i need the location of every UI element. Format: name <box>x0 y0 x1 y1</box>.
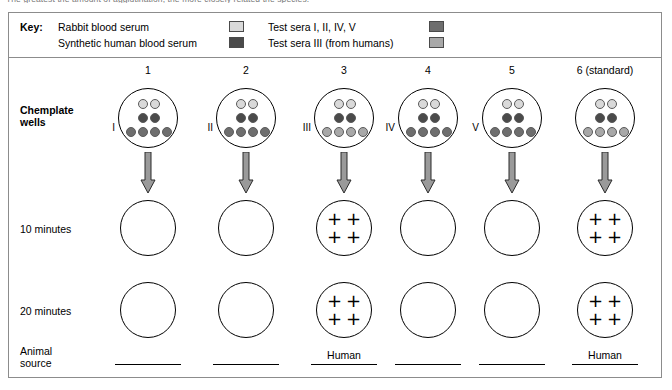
row-label-animal-source: Animal source <box>20 345 52 369</box>
test-sera-dot <box>162 127 172 137</box>
result-well-twenty-minutes-1 <box>120 282 176 338</box>
well-roman-numeral-1: I <box>101 122 115 133</box>
plus-mark: + <box>346 230 361 244</box>
flow-arrow-3 <box>336 152 352 196</box>
test-sera-dot <box>595 127 605 137</box>
test-sera-dot <box>607 127 617 137</box>
chemplate-well-1 <box>118 88 178 148</box>
animal-source-blank-3[interactable] <box>311 364 377 365</box>
plus-mark: + <box>346 312 361 326</box>
rabbit-serum-dot <box>595 99 605 109</box>
synthetic-serum-dot <box>150 113 160 123</box>
agglutination-marks: ++++ <box>317 283 371 337</box>
synthetic-serum-dot <box>346 113 356 123</box>
plus-mark: + <box>346 294 361 308</box>
test-sera-dot <box>490 127 500 137</box>
plus-mark: + <box>327 212 342 226</box>
result-well-ten-minutes-4 <box>400 200 456 256</box>
rabbit-serum-dot <box>138 99 148 109</box>
plus-mark: + <box>327 230 342 244</box>
column-header-4: 4 <box>383 64 473 76</box>
test-sera-dot <box>236 127 246 137</box>
result-well-twenty-minutes-3: ++++ <box>316 282 372 338</box>
row-label-twenty-minutes: 20 minutes <box>20 305 71 317</box>
test-sera-dot <box>358 127 368 137</box>
test-sera-dot <box>346 127 356 137</box>
key-swatch-rabbit-serum <box>229 21 244 32</box>
plus-mark: + <box>588 294 603 308</box>
rabbit-serum-dot <box>334 99 344 109</box>
animal-source-blank-5[interactable] <box>479 364 545 365</box>
animal-source-blank-1[interactable] <box>115 364 181 365</box>
test-sera-dot <box>126 127 136 137</box>
key-label-rabbit-serum: Rabbit blood serum <box>58 21 149 33</box>
test-sera-dot <box>150 127 160 137</box>
rabbit-serum-dot <box>346 99 356 109</box>
rabbit-serum-dot <box>248 99 258 109</box>
key-divider <box>9 57 661 58</box>
plus-mark: + <box>346 212 361 226</box>
result-well-twenty-minutes-6: ++++ <box>577 282 633 338</box>
key-swatch-synthetic-human-serum <box>229 37 244 48</box>
animal-source-blank-4[interactable] <box>395 364 461 365</box>
synthetic-serum-dot <box>607 113 617 123</box>
animal-source-blank-6[interactable] <box>572 364 638 365</box>
column-header-2: 2 <box>201 64 291 76</box>
well-roman-numeral-5: V <box>465 122 479 133</box>
animal-source-answer-6: Human <box>572 349 638 361</box>
rabbit-serum-dot <box>418 99 428 109</box>
test-sera-dot <box>619 127 629 137</box>
plus-mark: + <box>607 230 622 244</box>
test-sera-dot <box>442 127 452 137</box>
synthetic-serum-dot <box>595 113 605 123</box>
chemplate-well-5 <box>482 88 542 148</box>
flow-arrow-1 <box>140 152 156 196</box>
rabbit-serum-dot <box>430 99 440 109</box>
test-sera-dot <box>334 127 344 137</box>
test-sera-dot <box>526 127 536 137</box>
chemplate-well-3 <box>314 88 374 148</box>
rabbit-serum-dot <box>502 99 512 109</box>
rabbit-serum-dot <box>607 99 617 109</box>
synthetic-serum-dot <box>430 113 440 123</box>
plus-mark: + <box>588 212 603 226</box>
key-swatch-test-sera-three <box>429 37 444 48</box>
column-header-3: 3 <box>299 64 389 76</box>
test-sera-dot <box>418 127 428 137</box>
agglutination-marks: ++++ <box>578 283 632 337</box>
synthetic-serum-dot <box>502 113 512 123</box>
test-sera-dot <box>138 127 148 137</box>
flow-arrow-6 <box>597 152 613 196</box>
test-sera-dot <box>583 127 593 137</box>
chemplate-well-4 <box>398 88 458 148</box>
flow-arrow-5 <box>504 152 520 196</box>
column-header-1: 1 <box>103 64 193 76</box>
plus-mark: + <box>588 230 603 244</box>
rabbit-serum-dot <box>236 99 246 109</box>
test-sera-dot <box>224 127 234 137</box>
chemplate-well-6 <box>575 88 635 148</box>
agglutination-marks: ++++ <box>317 201 371 255</box>
plus-mark: + <box>327 294 342 308</box>
plus-mark: + <box>607 294 622 308</box>
synthetic-serum-dot <box>248 113 258 123</box>
plus-mark: + <box>607 312 622 326</box>
synthetic-serum-dot <box>334 113 344 123</box>
test-sera-dot <box>248 127 258 137</box>
result-well-ten-minutes-1 <box>120 200 176 256</box>
test-sera-dot <box>502 127 512 137</box>
result-well-twenty-minutes-2 <box>218 282 274 338</box>
key-label-test-sera-group: Test sera I, II, IV, V <box>268 21 356 33</box>
column-header-6: 6 (standard) <box>560 64 650 76</box>
well-roman-numeral-2: II <box>199 122 213 133</box>
result-well-twenty-minutes-4 <box>400 282 456 338</box>
column-header-5: 5 <box>467 64 557 76</box>
clipped-header-text: The greatest the amount of agglutination… <box>6 0 566 3</box>
plus-mark: + <box>588 312 603 326</box>
key-label-test-sera-three: Test sera III (from humans) <box>268 37 393 49</box>
test-sera-dot <box>406 127 416 137</box>
animal-source-blank-2[interactable] <box>213 364 279 365</box>
flow-arrow-4 <box>420 152 436 196</box>
key-swatch-test-sera-group <box>429 21 444 32</box>
result-well-twenty-minutes-5 <box>484 282 540 338</box>
